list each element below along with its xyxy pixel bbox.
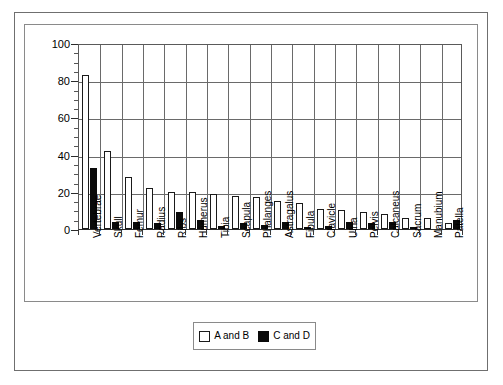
y-axis-tick-minor [74, 165, 78, 166]
legend-item-c-and-d: C and D [258, 331, 310, 342]
x-axis-tick [462, 230, 463, 235]
y-axis-tick-minor [74, 146, 78, 147]
x-axis-tick [121, 230, 122, 235]
bar-a-and-b [424, 218, 431, 229]
y-axis-tick-label: 60 [36, 113, 70, 124]
x-axis-tick [249, 230, 250, 235]
x-axis-category-label: Fibula [306, 211, 316, 238]
y-axis-tick-major [71, 44, 78, 45]
bar-a-and-b [189, 192, 196, 229]
y-axis-tick-minor [74, 109, 78, 110]
gridline-vertical [356, 45, 357, 229]
y-axis-tick-major [71, 193, 78, 194]
x-axis-tick [355, 230, 356, 235]
x-axis-tick [313, 230, 314, 235]
x-axis-category-label: Scapula [242, 202, 252, 238]
bar-a-and-b [125, 177, 132, 229]
bar-a-and-b [232, 196, 239, 229]
bar-a-and-b [360, 212, 367, 229]
bar-a-and-b [210, 194, 217, 229]
gridline-vertical [420, 45, 421, 229]
x-axis-category-label: Phalanges [263, 191, 273, 238]
y-axis-tick-minor [74, 137, 78, 138]
x-axis-tick [206, 230, 207, 235]
y-axis-tick-minor [74, 91, 78, 92]
y-axis-tick-minor [74, 53, 78, 54]
gridline-vertical [335, 45, 336, 229]
gridline-vertical [164, 45, 165, 229]
bar-a-and-b [402, 218, 409, 229]
x-axis-tick [142, 230, 143, 235]
y-axis-tick-minor [74, 128, 78, 129]
x-axis-category-label: Radius [157, 207, 167, 238]
y-axis-tick-label: 80 [36, 76, 70, 87]
bar-a-and-b [338, 210, 345, 229]
x-axis-tick [377, 230, 378, 235]
x-axis-category-label: Calcaneus [391, 191, 401, 238]
bar-a-and-b [146, 188, 153, 229]
x-axis-category-label: Ulna [349, 217, 359, 238]
bar-a-and-b [104, 151, 111, 229]
x-axis-tick [99, 230, 100, 235]
legend-label-a-and-b: A and B [214, 331, 249, 341]
gridline-vertical [378, 45, 379, 229]
x-axis-tick [441, 230, 442, 235]
bar-a-and-b [296, 203, 303, 229]
y-axis-tick-minor [74, 100, 78, 101]
chart-legend: A and B C and D [193, 322, 316, 350]
x-axis-category-label: Sacrum [413, 204, 423, 238]
y-axis-tick-major [71, 81, 78, 82]
x-axis-category-label: Femur [135, 209, 145, 238]
bar-a-and-b [445, 223, 452, 229]
gridline-vertical [314, 45, 315, 229]
x-axis-tick [185, 230, 186, 235]
y-axis-tick-minor [74, 174, 78, 175]
x-axis-category-label: Skull [114, 216, 124, 238]
bar-a-and-b [82, 75, 89, 229]
y-axis-tick-minor [74, 221, 78, 222]
bar-a-and-b [253, 197, 260, 229]
y-axis-tick-major [71, 156, 78, 157]
x-axis-tick [334, 230, 335, 235]
x-axis-category-label: Patella [455, 207, 465, 238]
x-axis-category-label: Ribs [178, 218, 188, 238]
x-axis-category-label: Humerus [199, 197, 209, 238]
x-axis-tick [291, 230, 292, 235]
gridline-vertical [143, 45, 144, 229]
y-axis-tick-label: 100 [36, 39, 70, 50]
x-axis-category-label: Vertebrae [93, 195, 103, 238]
legend-label-c-and-d: C and D [273, 331, 310, 341]
bar-a-and-b [274, 201, 281, 229]
gridline-vertical [122, 45, 123, 229]
x-axis-tick [78, 230, 79, 235]
y-axis-tick-major [71, 118, 78, 119]
gridline-horizontal [79, 119, 461, 120]
chart-figure: 020406080100 VertebraeSkullFemurRadiusRi… [0, 0, 503, 385]
x-axis-tick [419, 230, 420, 235]
y-axis-tick-minor [74, 184, 78, 185]
black-square-icon [258, 331, 269, 342]
x-axis-category-label: Tibia [221, 217, 231, 238]
gridline-vertical [228, 45, 229, 229]
legend-item-a-and-b: A and B [199, 331, 249, 342]
white-square-icon [199, 331, 210, 342]
y-axis-tick-label: 40 [36, 151, 70, 162]
bar-a-and-b [317, 209, 324, 229]
x-axis-tick [227, 230, 228, 235]
y-axis-tick-minor [74, 211, 78, 212]
x-axis-category-label: Astragalus [285, 191, 295, 238]
y-axis-tick-minor [74, 63, 78, 64]
x-axis-tick [163, 230, 164, 235]
y-axis-tick-minor [74, 72, 78, 73]
y-axis-tick-minor [74, 202, 78, 203]
gridline-horizontal [79, 157, 461, 158]
y-axis-tick-major [71, 230, 78, 231]
x-axis-category-label: Pelvis [370, 211, 380, 238]
bar-a-and-b [168, 192, 175, 229]
gridline-vertical [186, 45, 187, 229]
gridline-horizontal [79, 82, 461, 83]
x-axis-category-label: Manubium [434, 191, 444, 238]
x-axis-tick [270, 230, 271, 235]
y-axis-tick-label: 0 [36, 225, 70, 236]
x-axis-category-label: Clavicle [327, 203, 337, 238]
